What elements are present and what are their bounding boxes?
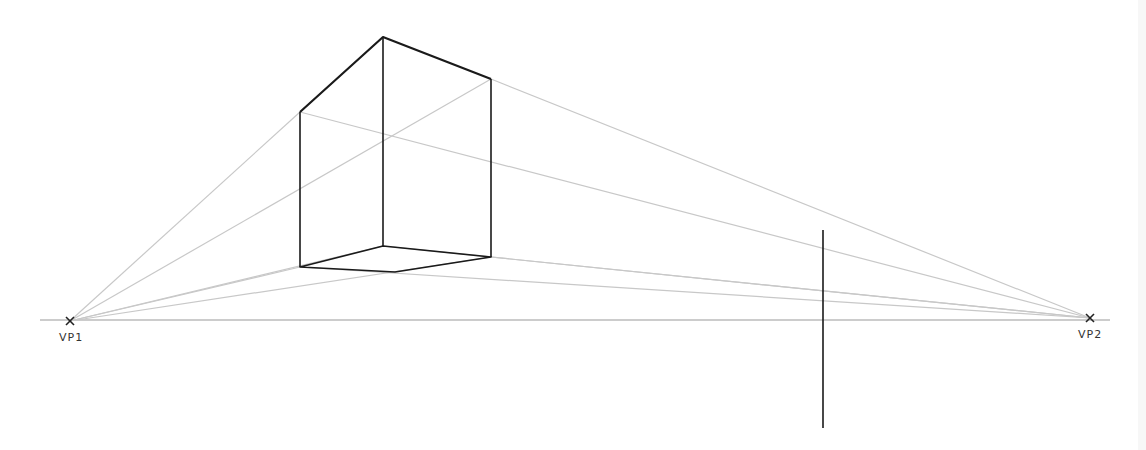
vp1-label: VP1: [59, 331, 83, 344]
vp1-guides: [70, 79, 491, 321]
box-bottom-face: [300, 246, 491, 272]
box-top-edges: [300, 37, 491, 112]
right-edge-strip: [1138, 0, 1146, 450]
vp2-label: VP2: [1078, 328, 1102, 341]
perspective-diagram: [0, 0, 1146, 450]
vp2-guides: [300, 79, 1090, 318]
